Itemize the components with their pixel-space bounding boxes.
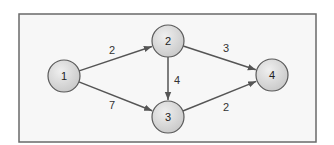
edge-weight-label: 3 (223, 42, 229, 54)
edge-weight-label: 7 (109, 99, 115, 111)
node-4: 4 (256, 59, 288, 91)
node-label: 3 (165, 111, 171, 123)
node-1: 1 (48, 60, 80, 92)
node-2: 2 (152, 25, 184, 57)
graph-diagram: 27432 1234 (0, 0, 334, 145)
node-label: 2 (165, 35, 171, 47)
node-label: 1 (61, 70, 67, 82)
edge-weight-label: 2 (223, 101, 229, 113)
node-3: 3 (152, 101, 184, 133)
node-label: 4 (269, 69, 275, 81)
edge-weight-label: 2 (109, 44, 115, 56)
edge-weight-label: 4 (174, 74, 180, 86)
